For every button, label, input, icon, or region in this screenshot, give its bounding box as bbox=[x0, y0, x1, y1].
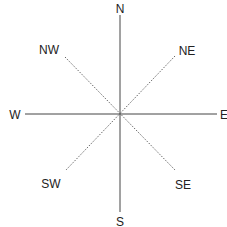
label-e: E bbox=[220, 108, 227, 122]
compass-diagram: N S W E NW NE SW SE bbox=[0, 0, 227, 227]
label-n: N bbox=[116, 2, 125, 16]
label-ne: NE bbox=[179, 44, 196, 58]
label-se: SE bbox=[175, 178, 191, 192]
label-sw: SW bbox=[41, 177, 61, 191]
label-w: W bbox=[9, 108, 21, 122]
label-s: S bbox=[116, 215, 124, 227]
label-nw: NW bbox=[39, 43, 60, 57]
